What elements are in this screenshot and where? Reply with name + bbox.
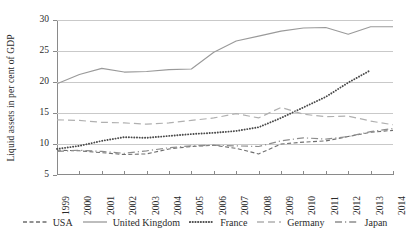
plot-area: [57, 20, 393, 175]
x-axis-tick: [236, 171, 237, 175]
legend-label: USA: [53, 217, 73, 228]
x-axis-tick: [169, 171, 170, 175]
series-layer: [57, 20, 393, 175]
legend-label: Germany: [287, 217, 324, 228]
x-axis-tick: [326, 171, 327, 175]
x-axis-tick: [124, 171, 125, 175]
legend-swatch-dotted-icon: [189, 218, 215, 226]
legend-item-japan[interactable]: Japan: [334, 217, 388, 228]
x-axis-tick: [79, 171, 80, 175]
x-axis-tick: [57, 171, 58, 175]
legend-swatch-longdash-icon: [256, 218, 282, 226]
series-line-france: [57, 70, 371, 149]
y-axis-title: Liquid assets in per cent of GDP: [2, 18, 20, 178]
x-axis-tick: [348, 171, 349, 175]
x-axis-tick: [393, 171, 394, 175]
x-axis-tick: [214, 171, 215, 175]
y-axis-tick: [53, 175, 57, 176]
legend-item-france[interactable]: France: [189, 217, 247, 228]
y-axis-tick-label: 5: [11, 170, 49, 180]
series-line-united-kingdom: [57, 27, 393, 84]
y-axis-tick-label: 20: [11, 77, 49, 87]
chart-legend: USAUnited KingdomFranceGermanyJapan: [0, 213, 409, 231]
x-axis-tick: [303, 171, 304, 175]
y-axis-tick-label: 10: [11, 139, 49, 149]
legend-item-usa[interactable]: USA: [22, 217, 73, 228]
y-axis-tick-label: 25: [11, 46, 49, 56]
x-axis-tick: [371, 171, 372, 175]
legend-label: Japan: [365, 217, 388, 228]
series-line-germany: [57, 107, 393, 124]
legend-swatch-dashdot-icon: [334, 218, 360, 226]
legend-label: France: [220, 217, 247, 228]
y-axis-tick-label: 30: [11, 15, 49, 25]
chart-container: Liquid assets in per cent of GDP 5101520…: [0, 0, 409, 235]
legend-swatch-solid-icon: [82, 218, 108, 226]
legend-label: United Kingdom: [113, 217, 181, 228]
y-axis-tick-label: 15: [11, 108, 49, 118]
x-axis-tick: [259, 171, 260, 175]
legend-item-united-kingdom[interactable]: United Kingdom: [82, 217, 181, 228]
x-axis-tick: [102, 171, 103, 175]
x-axis-tick: [191, 171, 192, 175]
legend-swatch-dashed-icon: [22, 218, 48, 226]
x-axis-tick: [147, 171, 148, 175]
series-line-usa: [57, 130, 393, 154]
legend-item-germany[interactable]: Germany: [256, 217, 324, 228]
x-axis-tick: [281, 171, 282, 175]
